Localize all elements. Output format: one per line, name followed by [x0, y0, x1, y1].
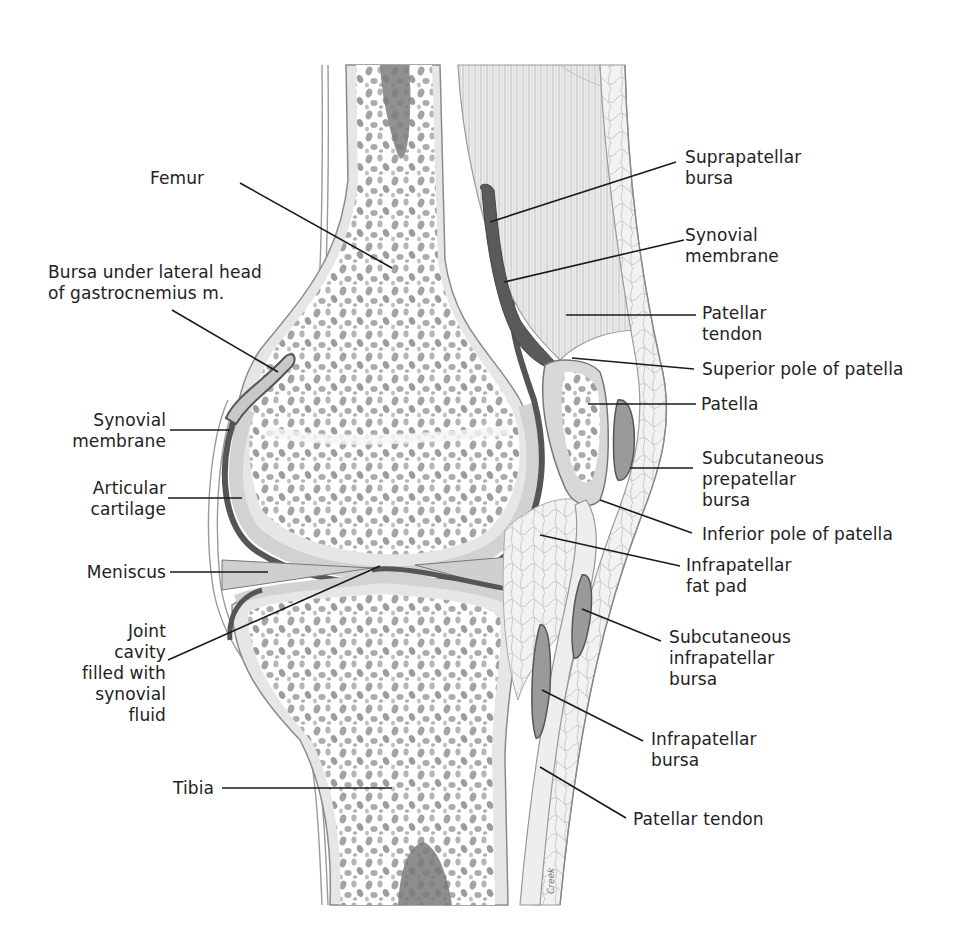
label-patellar-tendon-upper: Patellar tendon	[702, 303, 767, 345]
artist-signature: Creek	[546, 868, 556, 894]
label-synovial-membrane-right: Synovial membrane	[685, 225, 779, 267]
label-patella: Patella	[701, 394, 759, 415]
label-joint-cavity: Joint cavity filled with synovial fluid	[60, 621, 166, 726]
label-synovial-membrane-left: Synovial membrane	[60, 410, 166, 452]
label-infrapatellar-bursa: Infrapatellar bursa	[651, 729, 757, 771]
label-infrapatellar-fat-pad: Infrapatellar fat pad	[686, 555, 792, 597]
label-patellar-tendon-lower: Patellar tendon	[633, 809, 764, 830]
label-suprapatellar-bursa: Suprapatellar bursa	[685, 147, 801, 189]
label-articular-cartilage: Articular cartilage	[60, 478, 166, 520]
label-bursa-gastrocnemius: Bursa under lateral head of gastrocnemiu…	[48, 262, 262, 304]
label-superior-pole: Superior pole of patella	[702, 359, 904, 380]
tibia-cancellous-bone	[248, 594, 501, 905]
label-subcutaneous-prepatellar-bursa: Subcutaneous prepatellar bursa	[702, 448, 824, 511]
label-tibia: Tibia	[120, 778, 214, 799]
label-femur: Femur	[150, 168, 204, 189]
label-inferior-pole: Inferior pole of patella	[702, 524, 893, 545]
label-subcutaneous-infrapatellar-bursa: Subcutaneous infrapatellar bursa	[669, 627, 791, 690]
label-meniscus: Meniscus	[60, 562, 166, 583]
